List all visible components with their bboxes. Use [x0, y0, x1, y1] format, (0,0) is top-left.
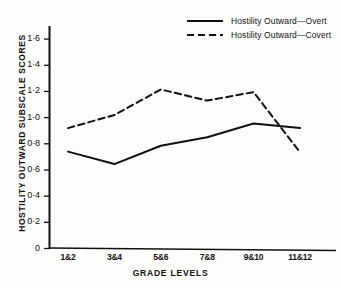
legend-label-covert: Hostility Outward—Covert: [231, 30, 331, 40]
legend-item-covert: Hostility Outward—Covert: [186, 28, 331, 42]
hostility-outward-line-chart: 00·20·40·60·81·01·21·41·6 1&23&45&67&89&…: [0, 0, 341, 289]
data-series-group: [68, 89, 300, 164]
x-axis-line: [49, 248, 337, 251]
x-tick-label: 3&4: [107, 252, 122, 262]
legend-swatch-dashed: [186, 30, 224, 40]
x-axis-title: GRADE LEVELS: [0, 268, 341, 278]
y-tick-label: 0: [8, 243, 40, 253]
axes: [49, 26, 337, 251]
x-tick-label: 1&2: [61, 252, 76, 262]
x-tick-label: 5&6: [153, 252, 168, 262]
series-line-covert: [68, 89, 300, 152]
legend-label-overt: Hostility Outward—Overt: [231, 16, 327, 26]
x-tick-label: 9&10: [244, 252, 264, 262]
legend: Hostility Outward—Overt Hostility Outwar…: [186, 14, 331, 42]
series-line-overt: [68, 124, 300, 165]
x-tick-label: 11&12: [288, 252, 312, 262]
plot-area: [0, 0, 341, 289]
legend-item-overt: Hostility Outward—Overt: [186, 14, 331, 28]
x-tick-label: 7&8: [200, 252, 215, 262]
legend-swatch-solid: [186, 16, 224, 26]
y-axis-title: HOSTILITY OUTWARD SUBSCALE SCORES: [17, 33, 27, 233]
